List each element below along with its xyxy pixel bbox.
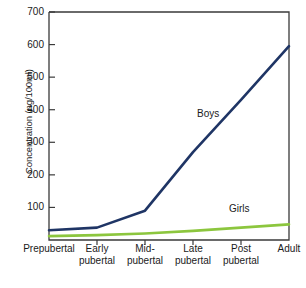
- y-axis-ticks: [49, 12, 55, 207]
- y-axis-tick-label: 100: [14, 202, 44, 212]
- x-axis-tick-label: Adult: [257, 243, 306, 255]
- y-axis-tick-label: 500: [14, 72, 44, 82]
- series-label-girls: Girls: [229, 203, 250, 214]
- y-axis-tick-label: 600: [14, 40, 44, 50]
- y-axis-tick-label: 300: [14, 137, 44, 147]
- concentration-line-chart: Concentration (ng/100ml) 100200300400500…: [0, 0, 306, 288]
- series-line-boys: [49, 46, 289, 230]
- plot-frame: [49, 12, 289, 240]
- y-axis-tick-label: 700: [14, 7, 44, 17]
- series-label-boys: Boys: [197, 108, 219, 119]
- x-axis-tick-labels: PrepubertalEarly pubertalMid- pubertalLa…: [0, 243, 306, 285]
- y-axis-tick-label: 400: [14, 105, 44, 115]
- y-axis-tick-label: 200: [14, 170, 44, 180]
- series-line-girls: [49, 224, 289, 236]
